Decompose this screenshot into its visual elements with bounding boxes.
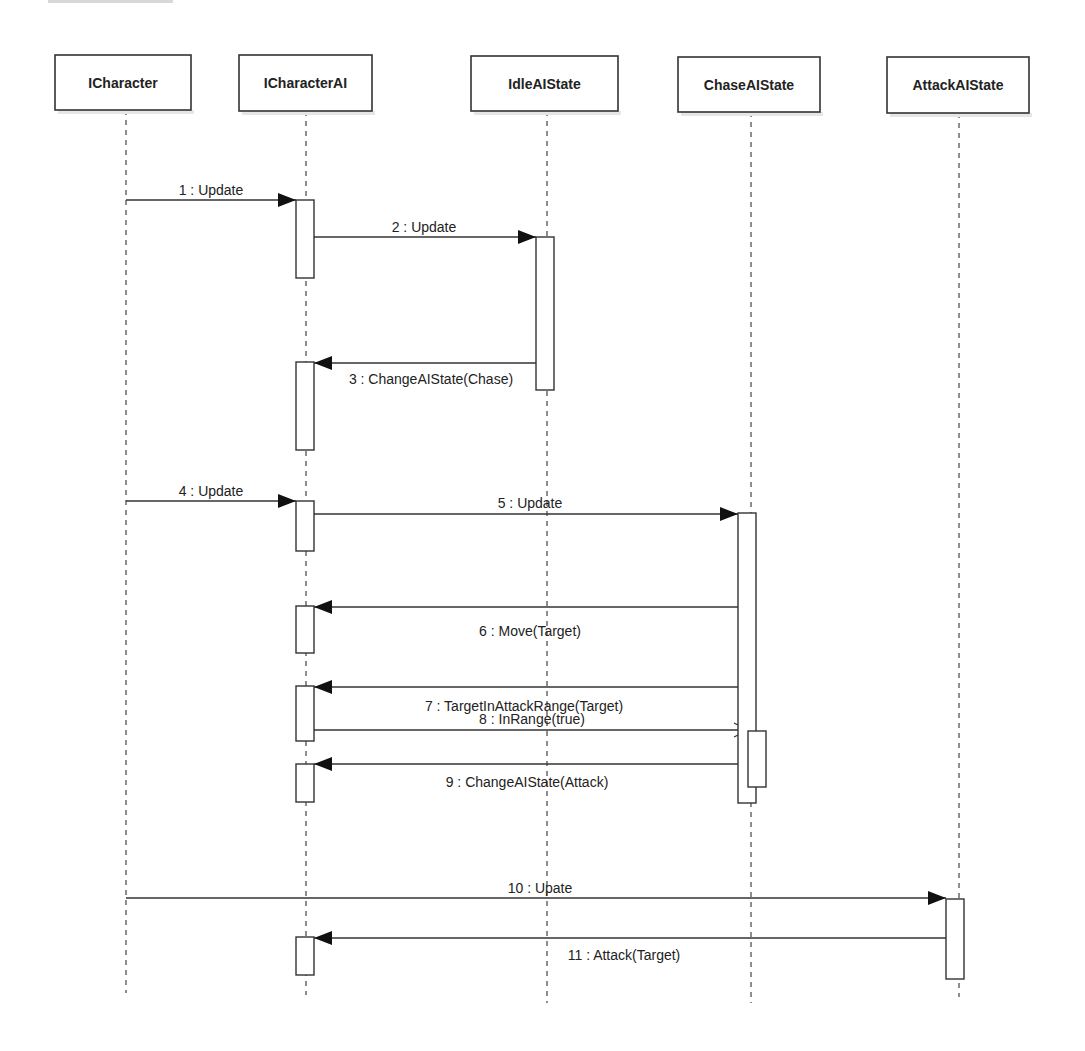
message-label: 5 : Update	[498, 495, 563, 511]
arrowhead-filled-icon	[314, 600, 332, 614]
message-5: 5 : Update	[314, 495, 738, 521]
message-label: 8 : InRange(true)	[479, 711, 585, 727]
message-label: 9 : ChangeAIState(Attack)	[446, 774, 609, 790]
participant-chaseaistate: ChaseAIState	[678, 57, 823, 116]
participant-icharacter: ICharacter	[55, 55, 194, 114]
activation-bar-icharacterai	[296, 764, 314, 802]
message-label: 4 : Update	[179, 483, 244, 499]
arrowhead-filled-icon	[518, 230, 536, 244]
message-7: 7 : TargetInAttackRange(Target)	[314, 680, 738, 714]
arrowhead-filled-icon	[314, 757, 332, 771]
message-label: 1 : Update	[179, 182, 244, 198]
activation-bar-chaseaistate	[748, 731, 766, 787]
participant-label: AttackAIState	[912, 77, 1003, 93]
message-label: 3 : ChangeAIState(Chase)	[349, 371, 513, 387]
message-4: 4 : Update	[126, 483, 296, 508]
activation-bar-icharacterai	[296, 501, 314, 551]
message-label: 10 : Upate	[508, 880, 573, 896]
message-8: 8 : InRange(true)	[314, 711, 748, 737]
arrowhead-filled-icon	[314, 356, 332, 370]
arrowhead-filled-icon	[314, 931, 332, 945]
message-label: 2 : Update	[392, 219, 457, 235]
message-1: 1 : Update	[126, 182, 296, 207]
activation-bar-attackaistate	[946, 899, 964, 979]
message-11: 11 : Attack(Target)	[314, 931, 946, 963]
arrowhead-filled-icon	[278, 494, 296, 508]
arrowhead-filled-icon	[314, 680, 332, 694]
message-6: 6 : Move(Target)	[314, 600, 738, 639]
message-label: 6 : Move(Target)	[479, 623, 581, 639]
message-10: 10 : Upate	[126, 880, 946, 905]
message-3: 3 : ChangeAIState(Chase)	[314, 356, 536, 387]
activation-bar-idleaistate	[536, 237, 554, 390]
participant-attackaistate: AttackAIState	[887, 57, 1032, 117]
activation-bar-icharacterai	[296, 937, 314, 975]
participant-idleaistate: IdleAIState	[471, 56, 621, 115]
participant-icharacterai: ICharacterAI	[239, 55, 375, 115]
participant-label: ICharacterAI	[264, 75, 347, 91]
participant-label: ICharacter	[88, 75, 158, 91]
message-label: 11 : Attack(Target)	[568, 947, 681, 963]
participant-label: ChaseAIState	[704, 77, 794, 93]
sequence-diagram: ICharacterICharacterAIIdleAIStateChaseAI…	[0, 0, 1085, 1051]
activations	[296, 200, 964, 979]
arrowhead-filled-icon	[928, 891, 946, 905]
arrowhead-filled-icon	[278, 193, 296, 207]
message-9: 9 : ChangeAIState(Attack)	[314, 757, 748, 790]
activation-bar-icharacterai	[296, 200, 314, 278]
message-2: 2 : Update	[314, 219, 536, 244]
participants: ICharacterICharacterAIIdleAIStateChaseAI…	[55, 55, 1032, 117]
participant-label: IdleAIState	[508, 76, 581, 92]
activation-bar-icharacterai	[296, 606, 314, 653]
activation-bar-icharacterai	[296, 362, 314, 450]
activation-bar-icharacterai	[296, 686, 314, 741]
arrowhead-filled-icon	[720, 507, 738, 521]
